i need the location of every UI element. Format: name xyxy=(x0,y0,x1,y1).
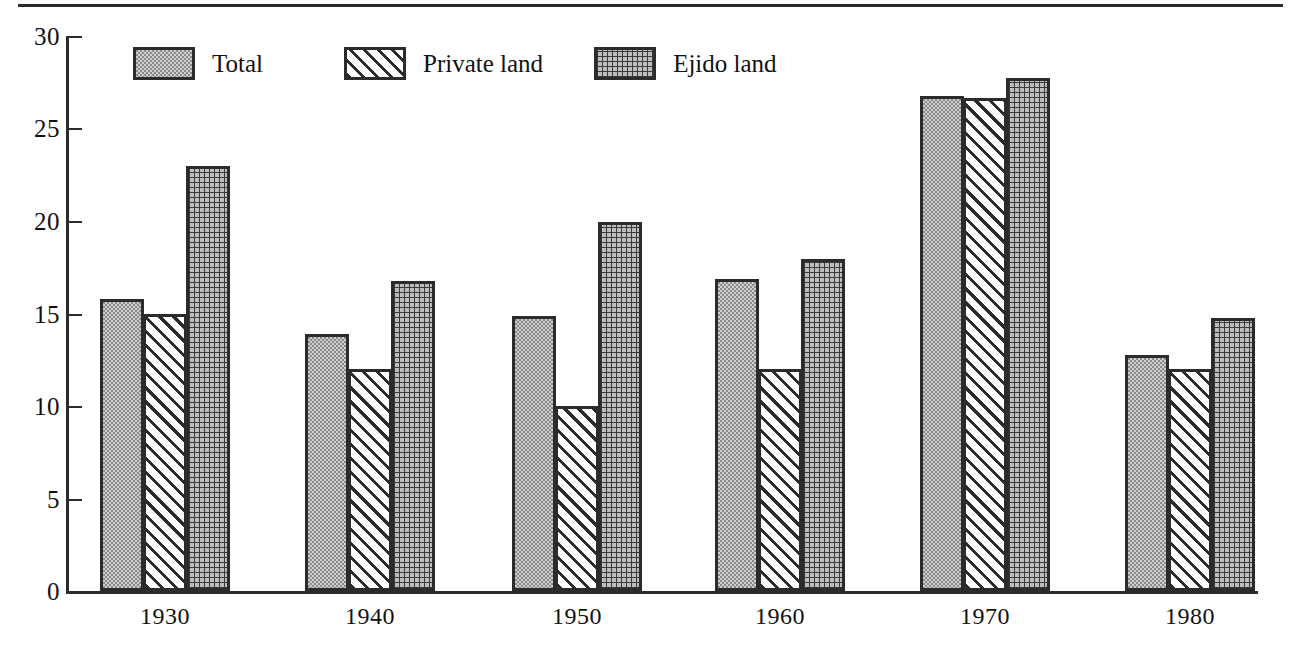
bar-1980-total xyxy=(1125,355,1169,591)
legend-swatch-ejido-land-icon xyxy=(594,47,656,80)
y-axis-label-0: 0 xyxy=(16,579,60,604)
legend-item-private-land: Private land xyxy=(344,47,543,80)
legend-spacer-1 xyxy=(263,63,344,64)
bar-1940-private xyxy=(348,369,392,591)
y-axis-label-25: 25 xyxy=(16,116,60,141)
y-axis-tick-30 xyxy=(69,36,82,38)
bar-1970-private xyxy=(963,98,1007,591)
y-axis-label-30: 30 xyxy=(16,24,60,49)
y-axis-tick-5 xyxy=(69,499,82,501)
bar-1930-total xyxy=(100,299,144,591)
legend-label-private-land: Private land xyxy=(423,51,543,76)
bar-1970-ejido xyxy=(1006,78,1050,591)
plot-area: 30 25 20 15 10 5 0 xyxy=(0,0,1291,659)
legend-swatch-total-icon xyxy=(133,47,195,80)
y-axis-label-5: 5 xyxy=(16,487,60,512)
bar-1950-total xyxy=(512,316,556,591)
y-axis-label-10: 10 xyxy=(16,394,60,419)
x-axis-label-1950: 1950 xyxy=(517,604,637,628)
bar-1930-private xyxy=(143,314,187,591)
x-axis-label-1940: 1940 xyxy=(310,604,430,628)
x-axis-label-1960: 1960 xyxy=(720,604,840,628)
x-axis-label-1980: 1980 xyxy=(1130,604,1250,628)
legend-spacer-2 xyxy=(543,63,594,64)
bar-chart-figure: 30 25 20 15 10 5 0 xyxy=(0,0,1291,659)
y-axis-label-20: 20 xyxy=(16,209,60,234)
bar-1960-private xyxy=(758,369,802,591)
bar-1950-private xyxy=(555,406,599,591)
legend-swatch-private-land-icon xyxy=(344,47,406,80)
legend-label-ejido-land: Ejido land xyxy=(673,51,776,76)
y-axis-tick-15 xyxy=(69,314,82,316)
y-axis-tick-20 xyxy=(69,221,82,223)
chart-legend: Total Private land Ejido land xyxy=(133,47,777,80)
bar-1960-ejido xyxy=(801,259,845,591)
bar-1960-total xyxy=(715,279,759,591)
bar-1980-ejido xyxy=(1211,318,1255,591)
bar-1950-ejido xyxy=(598,222,642,591)
legend-item-total: Total xyxy=(133,47,263,80)
legend-label-total: Total xyxy=(212,51,263,76)
y-axis-tick-10 xyxy=(69,406,82,408)
bar-1940-ejido xyxy=(391,281,435,591)
legend-item-ejido-land: Ejido land xyxy=(594,47,776,80)
bar-1930-ejido xyxy=(186,166,230,591)
bar-1940-total xyxy=(305,334,349,591)
y-axis-label-15: 15 xyxy=(16,302,60,327)
y-axis-tick-25 xyxy=(69,128,82,130)
x-axis-label-1930: 1930 xyxy=(105,604,225,628)
x-axis-label-1970: 1970 xyxy=(925,604,1045,628)
x-axis-line xyxy=(66,591,1258,594)
bar-1970-total xyxy=(920,96,964,591)
bar-1980-private xyxy=(1168,369,1212,591)
